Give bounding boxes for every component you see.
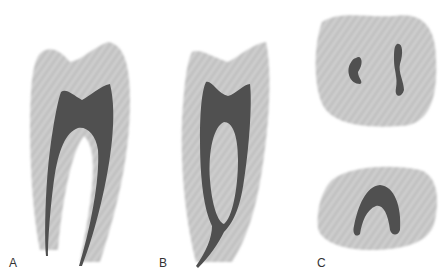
tooth-a <box>30 42 130 266</box>
cross-section-c-lower <box>318 167 437 250</box>
panel-label-c: C <box>317 256 326 270</box>
cross-section-c-upper <box>316 15 437 126</box>
dental-canal-diagram <box>0 0 448 280</box>
tooth-b <box>182 42 270 268</box>
panel-label-b: B <box>159 256 167 270</box>
panel-label-a: A <box>9 256 17 270</box>
